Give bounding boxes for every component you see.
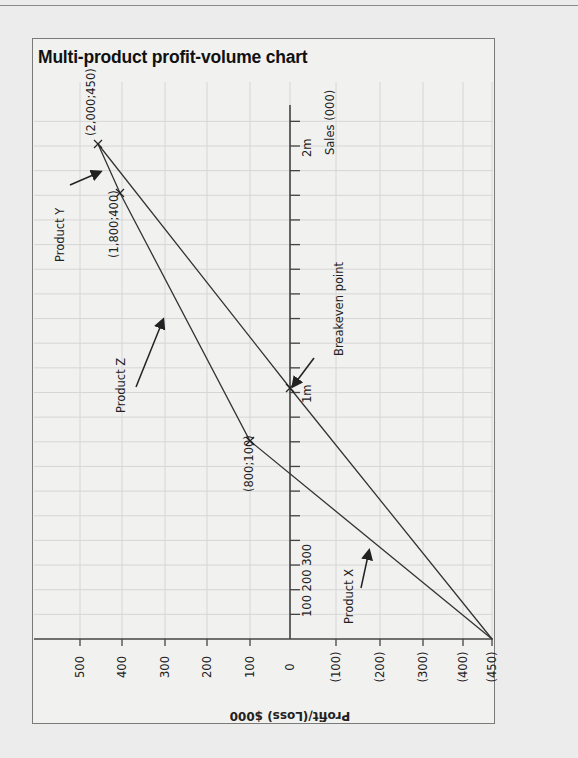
- sales-axis-ticks: [290, 121, 300, 614]
- profit-tick-label: 500: [73, 656, 87, 678]
- pv-chart: (2,000;450) (1,800;400) (800;100) Produc…: [0, 0, 578, 758]
- marker-2000-450: [94, 140, 102, 148]
- label-tick-2m: 2m: [300, 138, 314, 157]
- label-point-800: (800;100): [242, 435, 256, 492]
- profit-tick-label: (450): [485, 652, 499, 683]
- profit-tick-label: 300: [158, 656, 172, 678]
- profit-tick-label: (100): [329, 652, 343, 683]
- profit-tick-label: (300): [416, 652, 430, 683]
- label-point-1800: (1,800;400): [107, 190, 121, 258]
- label-product-y: Product Y: [53, 207, 67, 262]
- arrow-product-x: [361, 551, 369, 588]
- label-profit-axis: Profit/(Loss) $000: [230, 709, 351, 723]
- label-point-2000: (2,000;450): [84, 68, 98, 136]
- label-sales-small: 100 200 300: [300, 544, 314, 617]
- profit-tick-label: 0: [283, 663, 297, 670]
- profit-tick-label: (400): [456, 652, 470, 683]
- profit-tick-label: 100: [243, 656, 257, 678]
- label-product-x: Product X: [342, 569, 356, 624]
- profit-tick-labels: 5004003002001000(100)(200)(300)(400)(450…: [73, 652, 499, 683]
- profit-tick-label: 400: [115, 656, 129, 678]
- arrow-breakeven: [293, 358, 314, 386]
- profit-tick-label: (200): [373, 652, 387, 683]
- profit-axis-ticks: [80, 639, 492, 646]
- profit-tick-label: 200: [200, 656, 214, 678]
- label-product-z: Product Z: [114, 358, 128, 413]
- label-tick-1m: 1m: [300, 384, 314, 403]
- label-sales-axis: Sales (000): [323, 90, 337, 155]
- arrow-product-z: [136, 320, 163, 387]
- arrow-product-y: [70, 172, 100, 185]
- label-breakeven: Breakeven point: [332, 262, 346, 356]
